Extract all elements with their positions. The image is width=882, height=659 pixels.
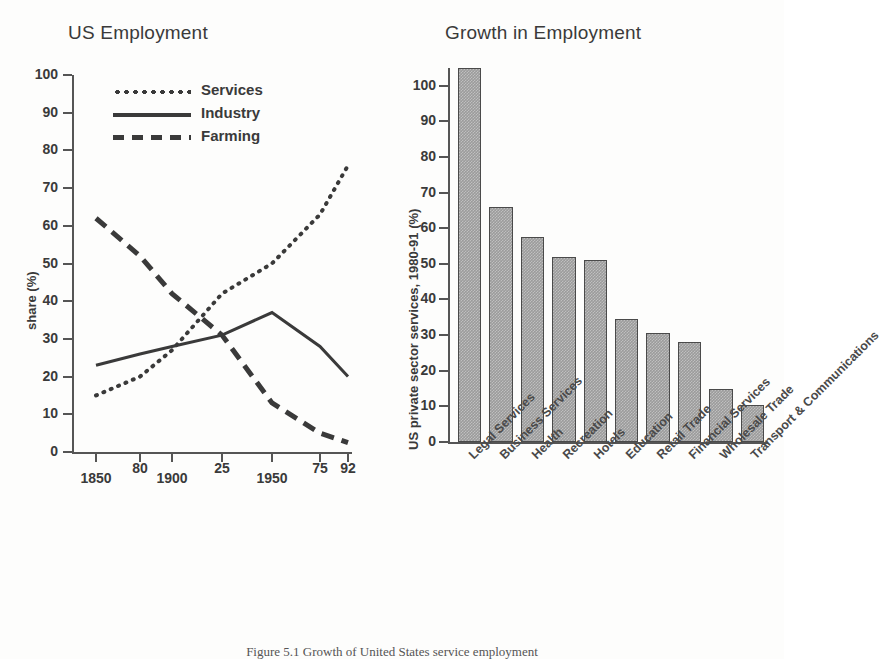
bar-category-label: Transport & Communications (748, 328, 882, 462)
right-y-tick-label: 10 (392, 397, 436, 413)
bar (552, 257, 575, 442)
right-y-tickmark (439, 405, 448, 407)
right-y-tickmark (439, 370, 448, 372)
growth-in-employment-bar-chart: Growth in Employment US private sector s… (392, 0, 784, 600)
bar (489, 207, 512, 442)
right-y-tickmark (439, 192, 448, 194)
right-y-tick-label: 60 (392, 219, 436, 235)
right-y-tick-label: 0 (392, 433, 436, 449)
right-y-tickmark (439, 441, 448, 443)
figure-caption: Figure 5.1 Growth of United States servi… (0, 644, 784, 659)
right-y-tickmark (439, 85, 448, 87)
bar (615, 319, 638, 442)
bar (458, 68, 481, 442)
right-y-tick-label: 40 (392, 290, 436, 306)
legend-item-services: Services (113, 80, 313, 103)
us-employment-line-chart: US Employment share (%) 0102030405060708… (0, 0, 392, 600)
right-y-tickmark (439, 298, 448, 300)
services-dotted-swatch-icon (113, 90, 191, 94)
legend-label-services: Services (201, 81, 263, 98)
right-y-tick-label: 90 (392, 112, 436, 128)
bar-group (448, 50, 768, 442)
right-y-tickmark (439, 334, 448, 336)
farming-dashed-swatch-icon (113, 135, 191, 140)
legend-label-farming: Farming (201, 127, 260, 144)
line-series-industry (96, 313, 348, 377)
line-series-services (96, 165, 348, 395)
right-y-tick-label: 30 (392, 326, 436, 342)
legend-item-industry: Industry (113, 103, 313, 126)
right-y-tick-label: 70 (392, 184, 436, 200)
industry-solid-swatch-icon (113, 113, 191, 117)
right-y-tick-label: 20 (392, 362, 436, 378)
line-series-farming (96, 218, 348, 442)
left-chart-legend: Services Industry Farming (113, 80, 313, 149)
right-y-tick-label: 80 (392, 148, 436, 164)
right-y-tickmark (439, 263, 448, 265)
right-y-tickmark (439, 156, 448, 158)
right-y-tick-label: 50 (392, 255, 436, 271)
right-chart-title: Growth in Employment (445, 22, 641, 44)
legend-item-farming: Farming (113, 126, 313, 149)
right-y-tickmark (439, 227, 448, 229)
right-y-tickmark (439, 120, 448, 122)
right-y-tick-label: 100 (392, 77, 436, 93)
legend-label-industry: Industry (201, 104, 260, 121)
